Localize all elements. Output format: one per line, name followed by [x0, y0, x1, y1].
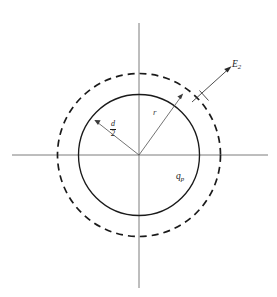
fraction-denominator: 2 [110, 130, 116, 139]
charge-subscript: p [181, 175, 184, 182]
sphere-radius-leader-line [97, 122, 139, 155]
field-vector-label: E2 [232, 60, 241, 71]
radius-label: r [153, 108, 157, 117]
field-vector-subscript: 2 [238, 63, 241, 70]
field-vector-tick [200, 91, 209, 101]
radius-leader-line [139, 96, 182, 155]
radius-symbol: r [153, 107, 157, 117]
charge-label: qp [176, 172, 184, 183]
radius-leader-arrowhead [177, 94, 183, 100]
physics-figure: E2 r qp d 2 [0, 0, 277, 297]
figure-canvas [0, 0, 277, 297]
field-vector-arrow-shaft [192, 69, 229, 102]
fraction: d 2 [110, 120, 116, 139]
sphere-radius-label: d 2 [110, 120, 116, 139]
